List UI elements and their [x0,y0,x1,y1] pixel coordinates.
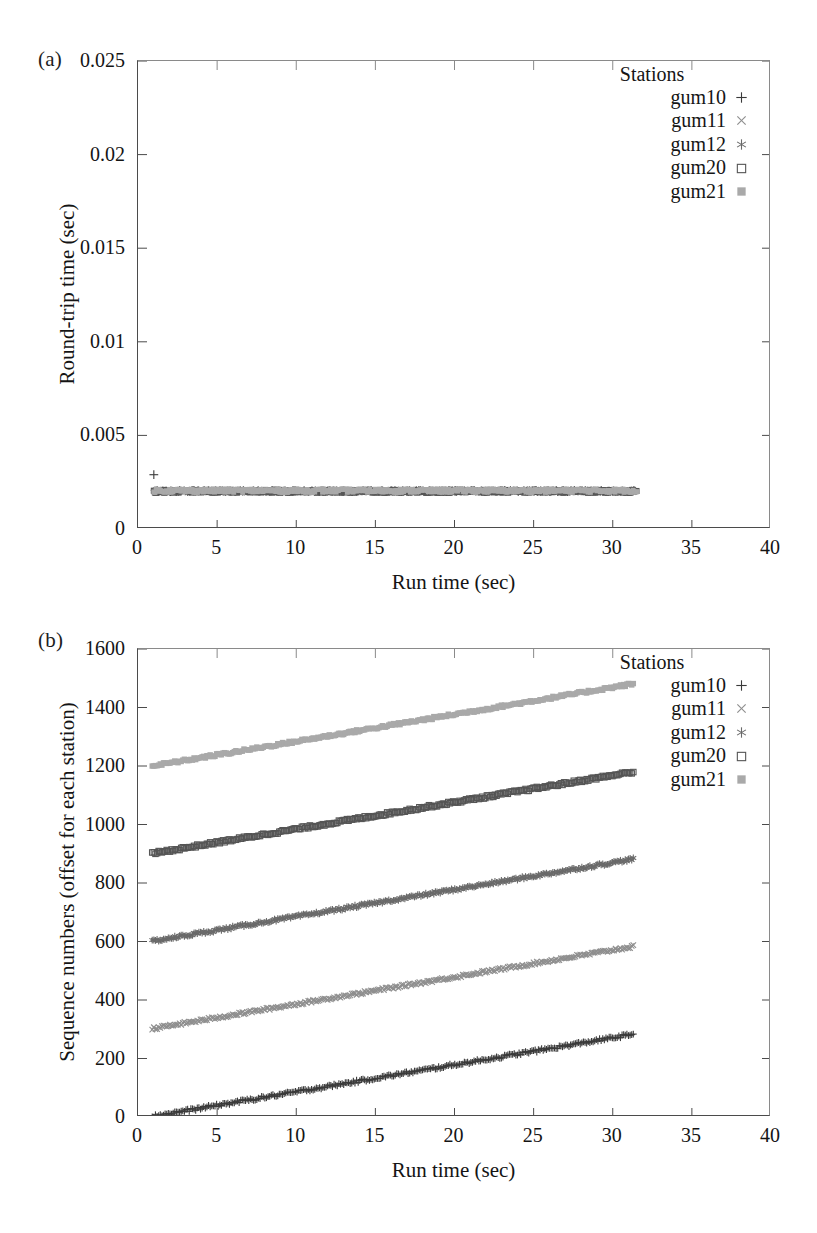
panel-b-y-tick-4: 800 [95,871,125,894]
open-square-icon [733,160,750,177]
panel-b-y-axis-title: Sequence numbers (offset for each statio… [55,702,80,1061]
series-gum21 [150,681,637,769]
panel-a-x-tick-5: 25 [523,536,543,559]
legend-entry-gum21: gum21 [580,768,750,792]
legend-entry-gum11: gum11 [580,697,750,721]
panel-a-y-tick-3: 0.015 [80,236,125,259]
legend-label-gum12: gum12 [670,721,726,745]
asterisk-icon [733,136,750,153]
legend-label-gum11: gum11 [671,697,726,721]
filled-square-icon [733,771,750,788]
cross-icon [733,700,750,717]
legend-entry-gum10: gum10 [580,86,750,110]
legend-label-gum20: gum20 [670,156,726,180]
panel-a-y-tick-0: 0 [115,517,125,540]
panel-a-legend-title: Stations [580,64,750,86]
panel-b-x-tick-6: 30 [602,1124,622,1147]
asterisk-icon [733,724,750,741]
panel-b-x-tick-8: 40 [760,1124,780,1147]
panel-b-x-axis-title: Run time (sec) [392,1158,516,1183]
panel-b-x-tick-0: 0 [132,1124,142,1147]
panel-b-x-tick-5: 25 [523,1124,543,1147]
legend-entry-gum20: gum20 [580,744,750,768]
series-gum11 [150,942,637,1032]
panel-b-y-tick-7: 1400 [85,695,125,718]
panel-b-y-tick-6: 1200 [85,754,125,777]
plus-icon [733,677,750,694]
series-gum10 [149,1031,637,1116]
panel-a-tag: (a) [38,47,62,72]
panel-b-y-tick-1: 200 [95,1046,125,1069]
panel-a-legend: Stations gum10gum11gum12gum20gum21 [580,64,750,204]
legend-label-gum21: gum21 [670,768,726,792]
panel-a: (a) Run time (sec) Round-trip time (sec)… [0,0,817,610]
panel-b: (b) Run time (sec) Sequence numbers (off… [0,600,817,1233]
panel-b-legend-title: Stations [580,652,750,674]
open-square-icon [733,748,750,765]
legend-label-gum20: gum20 [670,744,726,768]
panel-a-y-tick-1: 0.005 [80,423,125,446]
panel-a-y-axis-title: Round-trip time (sec) [55,204,80,385]
plus-icon [733,89,750,106]
panel-b-y-tick-2: 400 [95,988,125,1011]
outlier-point [149,470,158,479]
legend-entry-gum12: gum12 [580,133,750,157]
panel-a-x-tick-2: 10 [285,536,305,559]
legend-entry-gum20: gum20 [580,156,750,180]
legend-entry-gum11: gum11 [580,109,750,133]
panel-a-x-tick-1: 5 [211,536,221,559]
legend-label-gum12: gum12 [670,133,726,157]
panel-a-x-tick-6: 30 [602,536,622,559]
legend-entry-gum12: gum12 [580,721,750,745]
panel-a-y-tick-4: 0.02 [90,142,125,165]
legend-entry-gum10: gum10 [580,674,750,698]
panel-b-legend: Stations gum10gum11gum12gum20gum21 [580,652,750,792]
panel-a-x-tick-7: 35 [681,536,701,559]
legend-label-gum10: gum10 [670,674,726,698]
legend-entry-gum21: gum21 [580,180,750,204]
panel-b-x-tick-3: 15 [364,1124,384,1147]
series-gum20 [150,769,637,856]
panel-b-x-tick-4: 20 [444,1124,464,1147]
panel-a-x-tick-8: 40 [760,536,780,559]
figure-root: (a) Run time (sec) Round-trip time (sec)… [0,0,817,1233]
panel-a-x-tick-0: 0 [132,536,142,559]
panel-b-x-tick-2: 10 [285,1124,305,1147]
panel-a-x-tick-3: 15 [364,536,384,559]
panel-a-x-axis-title: Run time (sec) [392,570,516,595]
legend-label-gum21: gum21 [670,180,726,204]
cross-icon [733,112,750,129]
legend-label-gum10: gum10 [670,86,726,110]
panel-b-x-tick-1: 5 [211,1124,221,1147]
series-gum12 [149,855,636,945]
panel-b-tag: (b) [38,628,63,653]
panel-b-y-tick-8: 1600 [85,637,125,660]
panel-a-y-tick-5: 0.025 [80,49,125,72]
panel-b-y-tick-3: 600 [95,929,125,952]
panel-b-y-tick-5: 1000 [85,812,125,835]
panel-a-x-tick-4: 20 [444,536,464,559]
panel-b-y-tick-0: 0 [115,1105,125,1128]
panel-a-y-tick-2: 0.01 [90,329,125,352]
panel-b-x-tick-7: 35 [681,1124,701,1147]
legend-label-gum11: gum11 [671,109,726,133]
filled-square-icon [733,183,750,200]
